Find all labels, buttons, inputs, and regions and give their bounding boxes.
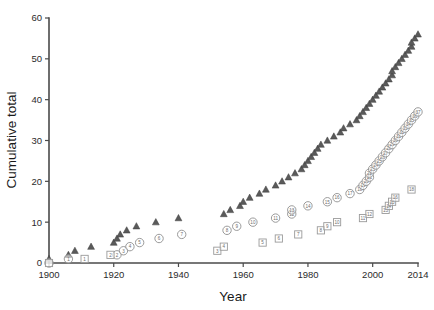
data-point[interactable]	[317, 141, 324, 147]
data-point[interactable]	[262, 186, 269, 192]
x-tick-label-2014: 2014	[407, 269, 428, 280]
data-point[interactable]: 18	[408, 186, 415, 193]
data-point[interactable]: 16	[392, 194, 399, 201]
circle-marker-label: 7	[180, 232, 183, 237]
square-marker-label: 16	[393, 195, 399, 200]
data-point[interactable]: 4	[126, 242, 134, 250]
square-marker-label: 2	[109, 253, 112, 258]
x-tick-label-1980: 1980	[297, 269, 318, 280]
data-point[interactable]	[256, 190, 263, 196]
data-point[interactable]: 14	[304, 202, 312, 210]
triangle-marker	[340, 125, 347, 131]
square-marker-label: 7	[297, 232, 300, 237]
data-point[interactable]	[133, 223, 140, 229]
data-point[interactable]: 1	[81, 255, 88, 262]
data-point[interactable]: 16	[333, 193, 341, 201]
data-point[interactable]: 10	[333, 219, 340, 226]
data-point[interactable]	[324, 137, 331, 143]
data-series-group: 1234567891011121314151617181920212223242…	[45, 31, 422, 267]
square-marker-label: 12	[367, 212, 373, 217]
data-point[interactable]: 1	[64, 255, 72, 263]
data-point[interactable]	[279, 178, 286, 184]
data-point[interactable]: 7	[178, 230, 186, 238]
triangle-marker	[272, 182, 279, 188]
square-marker-label: 5	[261, 240, 264, 245]
triangle-marker	[123, 227, 130, 233]
circle-marker-label: 11	[273, 216, 278, 221]
circle-marker-label: 15	[325, 200, 331, 205]
y-axis: 0102030405060	[31, 12, 49, 268]
data-point[interactable]	[88, 243, 95, 249]
data-point[interactable]: 9	[233, 222, 241, 230]
data-point[interactable]	[285, 174, 292, 180]
triangle-marker	[220, 210, 227, 216]
data-point[interactable]	[415, 31, 422, 37]
data-point[interactable]	[246, 194, 253, 200]
circle-marker-label: 6	[158, 236, 161, 241]
data-point[interactable]	[152, 219, 159, 225]
series-square-series: 1234567891011121314151618	[45, 186, 415, 267]
scatter-plot: 0102030405060 19001920194019601980200020…	[0, 0, 434, 310]
series-circle-series: 1234567891011121314151617181920212223242…	[45, 108, 422, 267]
circle-marker-label: 2	[116, 253, 119, 258]
data-point[interactable]: 11	[271, 214, 279, 222]
data-point[interactable]	[227, 206, 234, 212]
data-point[interactable]	[220, 210, 227, 216]
data-point[interactable]	[117, 231, 124, 237]
triangle-marker	[71, 247, 78, 253]
data-point[interactable]: 7	[295, 231, 302, 238]
triangle-marker	[324, 137, 331, 143]
circle-marker-label: 9	[235, 224, 238, 229]
triangle-marker	[227, 206, 234, 212]
triangle-marker	[152, 219, 159, 225]
x-axis: 1900192019401960198020002014	[38, 263, 428, 280]
triangle-marker	[330, 133, 337, 139]
triangle-marker	[415, 31, 422, 37]
data-point[interactable]: 6	[155, 234, 163, 242]
data-point[interactable]: 4	[220, 243, 227, 250]
x-tick-label-1920: 1920	[103, 269, 124, 280]
data-point[interactable]: 12	[366, 210, 373, 217]
data-point[interactable]: 15	[323, 198, 331, 206]
triangle-marker	[317, 141, 324, 147]
data-point[interactable]: 37	[414, 108, 422, 116]
data-point[interactable]: 9	[324, 223, 331, 230]
data-point[interactable]	[292, 170, 299, 176]
data-point[interactable]	[240, 198, 247, 204]
data-point[interactable]: 6	[275, 235, 282, 242]
data-point[interactable]: 13	[288, 206, 296, 214]
square-marker-label: 9	[326, 224, 329, 229]
data-point[interactable]: 5	[259, 239, 266, 246]
triangle-marker	[246, 194, 253, 200]
data-point[interactable]	[340, 125, 347, 131]
data-point[interactable]: 8	[223, 226, 231, 234]
circle-marker-label: 16	[335, 195, 341, 200]
x-tick-label-2000: 2000	[362, 269, 383, 280]
data-point[interactable]	[71, 247, 78, 253]
square-marker-label: 18	[409, 187, 415, 192]
data-point[interactable]: 2	[107, 251, 114, 258]
x-tick-label-1940: 1940	[168, 269, 189, 280]
circle-marker-label: 4	[129, 244, 132, 249]
y-tick-label-40: 40	[31, 94, 42, 105]
data-point[interactable]	[330, 133, 337, 139]
data-point[interactable]: 5	[135, 238, 143, 246]
y-tick-label-30: 30	[31, 135, 42, 146]
data-point[interactable]	[272, 182, 279, 188]
data-point[interactable]: 17	[346, 189, 354, 197]
triangle-marker	[292, 170, 299, 176]
circle-marker-label: 3	[122, 249, 125, 254]
x-axis-title: Year	[219, 289, 247, 304]
data-point[interactable]	[45, 259, 52, 266]
y-tick-label-0: 0	[37, 257, 42, 268]
square-marker	[45, 259, 52, 266]
triangle-marker	[240, 198, 247, 204]
triangle-marker	[117, 231, 124, 237]
data-point[interactable]	[347, 121, 354, 127]
y-tick-label-50: 50	[31, 53, 42, 64]
square-marker-label: 8	[320, 228, 323, 233]
data-point[interactable]	[123, 227, 130, 233]
data-point[interactable]: 10	[249, 218, 257, 226]
data-point[interactable]	[175, 214, 182, 220]
triangle-marker	[347, 121, 354, 127]
